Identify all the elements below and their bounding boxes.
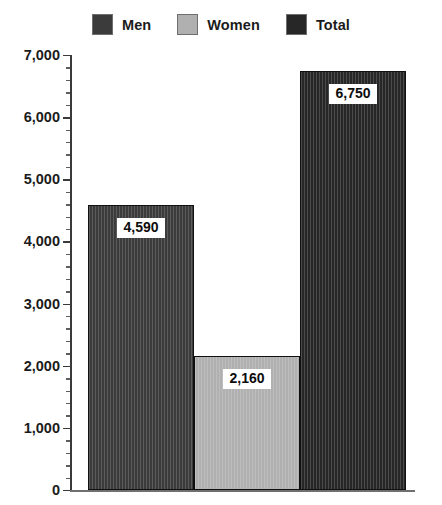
bar-value-label: 4,590 <box>117 218 164 239</box>
y-tick-minor <box>66 67 70 68</box>
bar-group: 4,5902,1606,750 <box>88 55 406 490</box>
bar-texture <box>89 206 193 489</box>
bar-men[interactable]: 4,590 <box>88 205 194 490</box>
y-tick-minor <box>66 465 70 466</box>
y-tick-minor <box>66 391 70 392</box>
y-tick-label: 5,000 <box>24 171 60 187</box>
legend-item-men: Men <box>92 14 151 35</box>
y-tick-minor <box>66 353 70 354</box>
bar-value-label: 2,160 <box>223 369 270 390</box>
y-tick-minor <box>66 92 70 93</box>
chart-legend: Men Women Total <box>0 14 442 35</box>
y-tick-major <box>63 117 70 118</box>
y-tick-label: 0 <box>52 482 60 498</box>
y-tick-minor <box>66 192 70 193</box>
y-tick-minor <box>66 229 70 230</box>
y-tick-major <box>63 55 70 56</box>
y-tick-major <box>63 428 70 429</box>
y-tick-label: 7,000 <box>24 47 60 63</box>
legend-item-women: Women <box>177 14 260 35</box>
y-tick-minor <box>66 279 70 280</box>
y-tick-minor <box>66 204 70 205</box>
y-tick-label: 2,000 <box>24 358 60 374</box>
y-tick-label: 1,000 <box>24 420 60 436</box>
y-axis-line <box>70 55 72 490</box>
y-tick-label: 6,000 <box>24 109 60 125</box>
y-tick-minor <box>66 105 70 106</box>
y-tick-major <box>63 304 70 305</box>
bar-women[interactable]: 2,160 <box>194 356 300 490</box>
y-tick-minor <box>66 328 70 329</box>
legend-label-men: Men <box>122 17 151 33</box>
y-tick-major <box>63 366 70 367</box>
bar-total[interactable]: 6,750 <box>300 71 406 490</box>
y-tick-minor <box>66 266 70 267</box>
y-tick-major <box>63 179 70 180</box>
y-tick-minor <box>66 130 70 131</box>
legend-label-total: Total <box>316 17 350 33</box>
y-tick-minor <box>66 217 70 218</box>
chart-plot-area: 01,0002,0003,0004,0005,0006,0007,000 4,5… <box>70 55 415 490</box>
y-tick-minor <box>66 453 70 454</box>
y-tick-label: 3,000 <box>24 296 60 312</box>
bar-value-label: 6,750 <box>329 84 376 105</box>
y-tick-minor <box>66 316 70 317</box>
legend-swatch-total <box>286 14 307 35</box>
y-tick-minor <box>66 415 70 416</box>
y-tick-minor <box>66 378 70 379</box>
y-tick-minor <box>66 254 70 255</box>
legend-swatch-men <box>92 14 113 35</box>
y-tick-minor <box>66 440 70 441</box>
bar-texture <box>301 72 405 489</box>
y-tick-label: 4,000 <box>24 233 60 249</box>
y-tick-minor <box>66 403 70 404</box>
y-tick-minor <box>66 142 70 143</box>
x-axis-line <box>70 490 415 492</box>
y-tick-minor <box>66 154 70 155</box>
y-tick-minor <box>66 80 70 81</box>
y-tick-minor <box>66 478 70 479</box>
legend-swatch-women <box>177 14 198 35</box>
y-tick-minor <box>66 341 70 342</box>
legend-label-women: Women <box>207 17 260 33</box>
y-tick-major <box>63 241 70 242</box>
y-tick-major <box>63 490 70 491</box>
y-tick-minor <box>66 167 70 168</box>
y-tick-minor <box>66 291 70 292</box>
legend-item-total: Total <box>286 14 350 35</box>
